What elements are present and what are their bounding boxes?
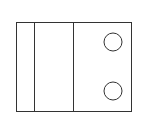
diagram-canvas [0, 0, 141, 124]
circle-top [104, 33, 122, 51]
circle-bottom [104, 82, 122, 100]
